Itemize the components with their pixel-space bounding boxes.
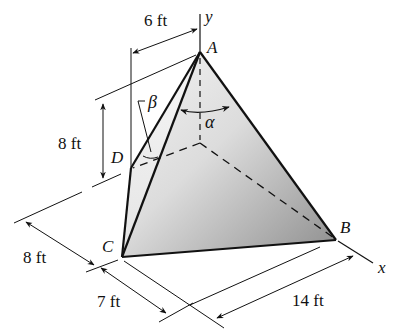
vertex-D-label: D	[110, 148, 124, 167]
dim-label-8ft-height: 8 ft	[58, 134, 81, 153]
x-axis	[338, 241, 373, 263]
tetrahedron-diagram: 6 ft y A β α 8 ft D 8 ft C B x 7 ft 14 f…	[0, 0, 398, 333]
dimension-14ft	[190, 247, 353, 318]
alpha-label: α	[205, 112, 215, 132]
dim-label-8ft-depth: 8 ft	[23, 248, 46, 267]
vertex-B-label: B	[340, 218, 351, 237]
dim-label-6ft: 6 ft	[144, 11, 167, 30]
tetrahedron-faces	[122, 52, 336, 257]
vertex-A-label: A	[206, 38, 218, 57]
y-axis-label: y	[203, 7, 213, 26]
dimension-8ft-height	[92, 104, 121, 187]
x-axis-label: x	[377, 258, 386, 277]
beta-label: β	[147, 92, 157, 112]
vertex-C-label: C	[102, 237, 114, 256]
dim-label-7ft: 7 ft	[97, 292, 120, 311]
dim-label-14ft: 14 ft	[292, 291, 324, 310]
